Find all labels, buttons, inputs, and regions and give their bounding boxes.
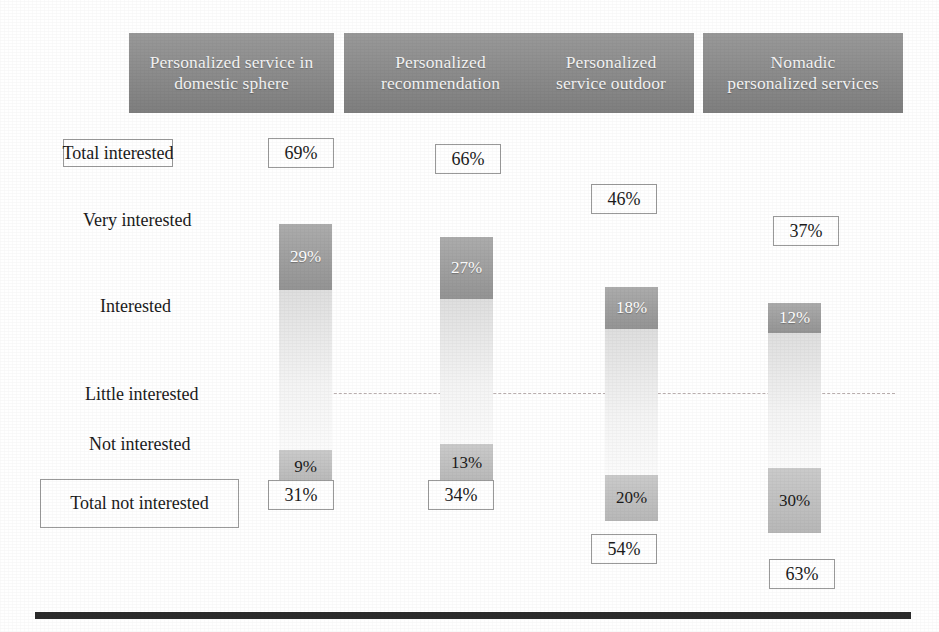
bottom-divider-rule (35, 612, 911, 619)
bar-segment-very-interested: 29% (279, 224, 332, 290)
column-header-line2: recommendation (381, 73, 500, 94)
column-header-line1: Personalized (381, 52, 500, 73)
bar-personalized-service-outdoor: 18% 20% (605, 287, 658, 521)
bar-segment-very-interested: 18% (605, 287, 658, 329)
total-not-interested-value-3: 54% (591, 534, 657, 564)
bar-segment-middle (768, 333, 821, 468)
column-header-line2: personalized services (727, 73, 878, 94)
total-interested-value-2: 66% (435, 144, 501, 174)
scale-label-not-interested: Not interested (89, 434, 190, 455)
total-not-interested-value-1: 31% (268, 480, 334, 510)
scale-label-total-not-interested-box: Total not interested (40, 479, 239, 528)
column-header-personalized-service-outdoor: Personalized service outdoor (528, 33, 694, 113)
bar-nomadic-personalized-services: 12% 30% (768, 303, 821, 533)
scale-label-very-interested: Very interested (83, 210, 191, 231)
column-header-personalized-service-domestic: Personalized service in domestic sphere (129, 33, 334, 113)
column-header-line2: domestic sphere (150, 73, 314, 94)
bar-segment-very-interested: 27% (440, 237, 493, 299)
bar-personalized-recommendation: 27% 13% (440, 237, 493, 482)
column-header-line1: Personalized (556, 52, 666, 73)
scale-label-total-interested: Total interested (62, 143, 173, 164)
bar-personalized-service-domestic: 29% 9% (279, 224, 332, 484)
bar-segment-not-interested: 13% (440, 444, 493, 482)
total-interested-value-1: 69% (268, 138, 334, 168)
bar-segment-not-interested: 30% (768, 468, 821, 533)
total-interested-value-4: 37% (773, 216, 839, 246)
bar-segment-very-interested: 12% (768, 303, 821, 333)
column-header-personalized-recommendation: Personalized recommendation (344, 33, 537, 113)
column-header-line2: service outdoor (556, 73, 666, 94)
bar-segment-not-interested: 9% (279, 450, 332, 484)
bar-segment-middle (605, 329, 658, 475)
bar-segment-not-interested: 20% (605, 475, 658, 521)
chart-canvas: Personalized service in domestic sphere … (0, 0, 939, 632)
bar-segment-middle (440, 299, 493, 444)
scale-label-little-interested: Little interested (85, 384, 198, 405)
scale-label-interested: Interested (100, 296, 171, 317)
total-not-interested-value-4: 63% (769, 559, 835, 589)
column-header-nomadic-personalized-services: Nomadic personalized services (703, 33, 903, 113)
column-header-line1: Personalized service in (150, 52, 314, 73)
bar-segment-middle (279, 290, 332, 450)
scale-label-total-interested-box: Total interested (63, 139, 173, 167)
column-header-line1: Nomadic (727, 52, 878, 73)
scale-label-total-not-interested: Total not interested (70, 493, 209, 514)
total-not-interested-value-2: 34% (428, 480, 494, 510)
total-interested-value-3: 46% (591, 184, 657, 214)
